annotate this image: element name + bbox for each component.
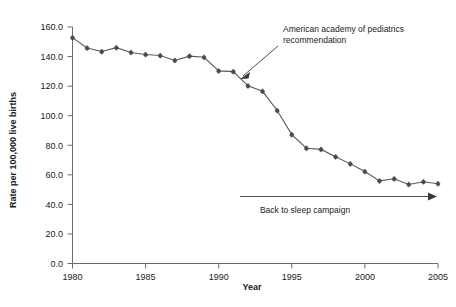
- chart-page: 0.020.040.060.080.0100.0120.0140.0160.0 …: [0, 0, 456, 307]
- chart-background: [0, 0, 456, 307]
- y-tick-label: 100.0: [40, 111, 63, 121]
- y-tick-label: 80.0: [45, 141, 63, 151]
- y-tick-label: 160.0: [40, 22, 63, 32]
- x-tick-label: 2005: [428, 272, 448, 282]
- x-tick-label: 1990: [209, 272, 229, 282]
- x-axis-title: Year: [242, 282, 262, 292]
- sids-rate-line-chart: 0.020.040.060.080.0100.0120.0140.0160.0 …: [0, 0, 456, 307]
- x-tick-label: 1995: [282, 272, 302, 282]
- aap-annotation-line1: American academy of pediatrics: [283, 24, 404, 34]
- y-tick-label: 120.0: [40, 81, 63, 91]
- y-tick-label: 40.0: [45, 200, 63, 210]
- x-tick-label: 2000: [355, 272, 375, 282]
- x-tick-label: 1985: [136, 272, 156, 282]
- back-to-sleep-label: Back to sleep campaign: [260, 205, 351, 215]
- y-axis-title: Rate per 100,000 live births: [8, 92, 18, 208]
- x-tick-label: 1980: [62, 272, 82, 282]
- y-tick-label: 140.0: [40, 52, 63, 62]
- y-tick-label: 20.0: [45, 229, 63, 239]
- y-tick-label: 60.0: [45, 170, 63, 180]
- y-tick-label: 0.0: [50, 259, 63, 269]
- aap-annotation-line2: recommendation: [283, 35, 347, 45]
